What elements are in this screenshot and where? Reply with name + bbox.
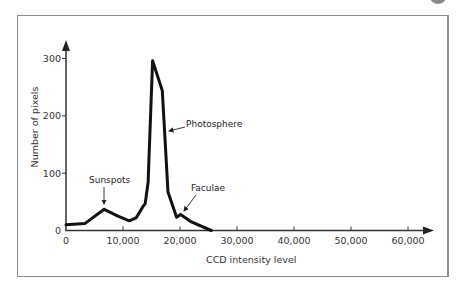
x-axis-title: CCD intensity level [206, 254, 296, 265]
y-tick-label: 100 [43, 168, 61, 179]
histogram-chart: 010,00020,00030,00040,00050,00060,000 01… [0, 0, 466, 295]
y-axis-arrow-icon [62, 40, 70, 51]
y-axis-title: Number of pixels [29, 87, 40, 168]
y-tick-label: 200 [43, 110, 61, 121]
x-axis-arrow-icon [423, 227, 434, 235]
y-tick-label: 300 [43, 53, 61, 64]
x-tick-label: 0 [63, 235, 69, 246]
photosphere-arrow-icon [169, 127, 185, 131]
x-tick-label: 30,000 [220, 235, 253, 246]
x-tick-label: 60,000 [391, 235, 424, 246]
y-tick-label: 0 [55, 225, 61, 236]
faculae-label: Faculae [191, 183, 226, 193]
annotation-photosphere: Photosphere [169, 119, 243, 131]
annotation-faculae: Faculae [184, 183, 226, 211]
x-tick-label: 40,000 [277, 235, 310, 246]
photosphere-label: Photosphere [186, 119, 243, 129]
faculae-arrow-icon [184, 195, 196, 211]
axes [62, 40, 434, 235]
x-tick-label: 20,000 [163, 235, 196, 246]
x-ticks: 010,00020,00030,00040,00050,00060,000 [63, 227, 425, 247]
histogram-line [66, 61, 211, 231]
x-tick-label: 10,000 [106, 235, 139, 246]
y-ticks: 0100200300 [43, 53, 66, 236]
x-tick-label: 50,000 [334, 235, 367, 246]
sunspots-label: Sunspots [89, 175, 131, 185]
annotation-sunspots: Sunspots [89, 175, 131, 204]
